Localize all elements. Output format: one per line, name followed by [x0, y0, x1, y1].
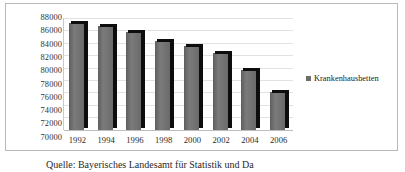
bar [155, 41, 174, 130]
bar [184, 46, 203, 130]
y-axis-tick-labels: 88000 86000 84000 82000 80000 78000 7600… [16, 13, 62, 135]
bar-face [241, 70, 256, 130]
y-axis-tick: 74000 [41, 106, 62, 116]
source-caption: Quelle: Bayerisches Landesamt für Statis… [46, 158, 396, 171]
x-axis-tick: 1994 [91, 134, 121, 146]
bar [241, 70, 260, 130]
x-axis-tick-labels: 19921994199619982000200220042006 [63, 134, 293, 148]
y-axis-tick: 72000 [41, 119, 62, 129]
bar-top-3d [157, 39, 174, 42]
bar [98, 26, 117, 130]
x-axis-tick: 1998 [149, 134, 179, 146]
bar-side-3d [84, 21, 88, 128]
x-axis-tick: 1996 [120, 134, 150, 146]
bar-side-3d [256, 68, 260, 128]
chart-frame: 88000 86000 84000 82000 80000 78000 7600… [5, 3, 398, 151]
bar-side-3d [285, 90, 289, 128]
bar-face [126, 32, 141, 130]
bar-side-3d [199, 44, 203, 128]
chart-legend: Krankenhausbetten [306, 74, 379, 83]
bar-face [69, 23, 84, 130]
bar-face [270, 92, 285, 130]
bar-face [213, 53, 228, 131]
bar-top-3d [215, 51, 232, 54]
y-axis-tick: 82000 [41, 53, 62, 63]
y-axis-tick: 70000 [41, 133, 62, 143]
x-axis-tick: 2000 [177, 134, 207, 146]
bar-top-3d [100, 24, 117, 27]
bar-face [98, 26, 113, 130]
bar-face [184, 46, 199, 130]
y-axis-tick: 78000 [41, 80, 62, 90]
bar-face [155, 41, 170, 130]
y-axis-tick: 88000 [41, 13, 62, 23]
bar-top-3d [128, 30, 145, 33]
bar [270, 92, 289, 130]
y-axis-tick: 80000 [41, 66, 62, 76]
bar-top-3d [272, 90, 289, 93]
bar [126, 32, 145, 130]
y-axis-tick: 86000 [41, 26, 62, 36]
legend-swatch-icon [306, 76, 311, 81]
bar-side-3d [141, 30, 145, 128]
x-axis-tick: 2002 [206, 134, 236, 146]
bar-top-3d [186, 44, 203, 47]
bar [69, 23, 88, 130]
bar-series-krankenhausbetten [64, 18, 293, 130]
bar-side-3d [228, 51, 232, 129]
chart-screenshot: 88000 86000 84000 82000 80000 78000 7600… [0, 0, 405, 172]
x-axis-tick: 2004 [235, 134, 265, 146]
bar-side-3d [113, 24, 117, 128]
x-axis-tick: 2006 [264, 134, 294, 146]
bar-top-3d [243, 68, 260, 71]
legend-label: Krankenhausbetten [314, 74, 379, 83]
x-axis-tick: 1992 [62, 134, 92, 146]
bar-side-3d [170, 39, 174, 128]
y-axis-tick: 84000 [41, 40, 62, 50]
plot-area [63, 18, 293, 130]
y-axis-tick: 76000 [41, 93, 62, 103]
bar [213, 53, 232, 131]
bar-top-3d [71, 21, 88, 24]
